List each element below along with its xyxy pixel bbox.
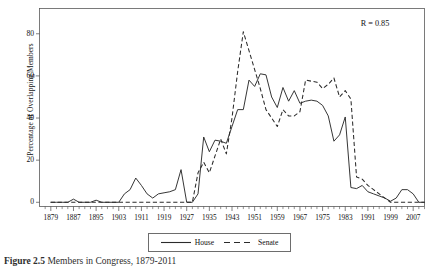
x-tick-label: 1935 [202,213,217,222]
y-tick-label: 80 [26,29,34,38]
x-tick-label: 1887 [66,213,81,222]
x-tick-label: 1991 [361,213,376,222]
x-tick-label: 1879 [44,213,59,222]
legend-label-house: House [195,238,214,247]
y-axis-ticks: 020406080 [26,29,39,207]
legend-label-senate: Senate [258,238,278,247]
y-tick-label: 0 [30,197,34,206]
legend-item-house[interactable]: House [161,238,214,247]
y-tick-label: 40 [26,113,34,122]
x-tick-label: 1999 [383,213,398,222]
x-tick-label: 1943 [225,213,240,222]
plot-area: 020406080 187918871895190319111919192719… [0,0,436,232]
x-tick-label: 1903 [111,213,126,222]
legend-swatch-house-icon [161,239,191,246]
x-tick-label: 2007 [406,213,421,222]
figure-container: Percentage of Overlapping Members 020406… [0,0,436,268]
x-tick-label: 1983 [338,213,353,222]
x-tick-label: 1959 [270,213,285,222]
x-tick-label: 1919 [157,213,172,222]
figure-caption-label: Figure 2.5 [4,256,45,266]
figure-caption: Figure 2.5 Members in Congress, 1879-201… [4,256,434,266]
x-axis-ticks: 1879188718951903191119191927193519431951… [44,207,425,223]
legend-item-senate[interactable]: Senate [224,238,278,247]
chart-legend: House Senate [148,233,291,252]
x-tick-label: 1927 [179,213,194,222]
x-tick-label: 1911 [134,213,149,222]
line-chart-svg: 020406080 187918871895190319111919192719… [0,0,436,232]
x-tick-label: 1975 [315,213,330,222]
x-tick-label: 1895 [89,213,104,222]
legend-swatch-senate-icon [224,239,254,246]
correlation-annotation: R = 0.85 [361,19,390,28]
plot-frame [40,9,425,207]
y-tick-label: 20 [26,155,34,164]
x-tick-label: 1967 [293,213,308,222]
x-tick-label: 1951 [247,213,262,222]
figure-caption-text: Members in Congress, 1879-2011 [47,256,176,266]
y-tick-label: 60 [26,71,34,80]
